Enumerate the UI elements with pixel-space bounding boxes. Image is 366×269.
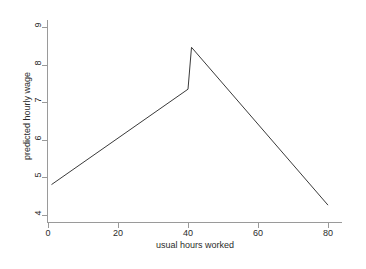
y-axis-title: predicted hourly wage xyxy=(22,15,32,217)
x-axis-title: usual hours worked xyxy=(48,240,342,250)
y-tick-label-4: 4 xyxy=(0,208,40,218)
y-tick-label-text: 9 xyxy=(32,23,42,28)
y-tick-6 xyxy=(42,140,47,141)
y-tick-label-8: 8 xyxy=(0,58,40,68)
wage-line-path xyxy=(52,47,329,205)
y-tick-7 xyxy=(42,102,47,103)
x-tick-label-60: 60 xyxy=(238,228,278,238)
y-tick-label-text: 7 xyxy=(32,98,42,103)
y-tick-8 xyxy=(42,65,47,66)
x-tick-label-20: 20 xyxy=(98,228,138,238)
y-tick-label-5: 5 xyxy=(0,170,40,180)
chart-figure: predicted hourly wage 456789 020406080 u… xyxy=(0,0,366,269)
plot-area xyxy=(48,20,342,222)
y-tick-9 xyxy=(42,27,47,28)
y-tick-label-text: 6 xyxy=(32,135,42,140)
y-tick-label-7: 7 xyxy=(0,95,40,105)
y-tick-label-text: 8 xyxy=(32,60,42,65)
y-tick-label-9: 9 xyxy=(0,20,40,30)
y-tick-5 xyxy=(42,177,47,178)
y-tick-4 xyxy=(42,215,47,216)
x-tick-label-40: 40 xyxy=(168,228,208,238)
y-tick-label-text: 4 xyxy=(32,210,42,215)
y-tick-label-6: 6 xyxy=(0,133,40,143)
x-tick-label-80: 80 xyxy=(308,228,348,238)
x-tick-label-0: 0 xyxy=(28,228,68,238)
y-tick-label-text: 5 xyxy=(32,173,42,178)
x-axis-line xyxy=(47,222,342,223)
line-series-svg xyxy=(48,20,342,222)
